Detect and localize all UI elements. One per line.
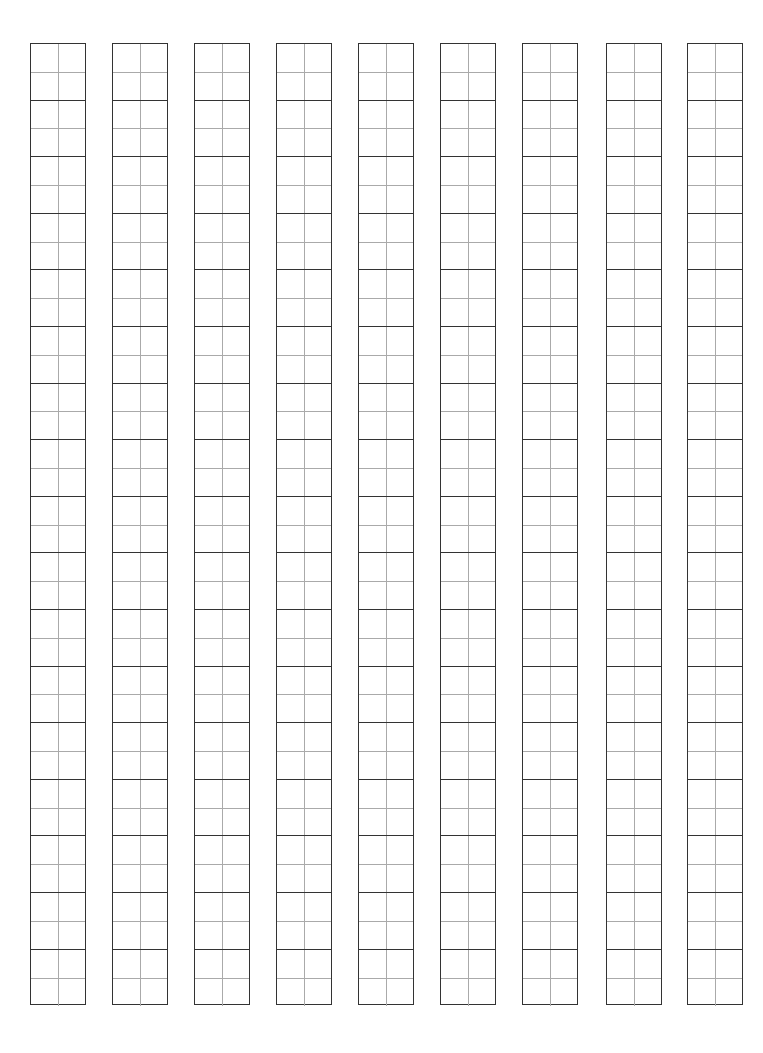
- grid-cell: [31, 667, 85, 724]
- grid-cell: [688, 950, 742, 1007]
- grid-cell: [441, 214, 495, 271]
- grid-cell: [31, 836, 85, 893]
- grid-cell: [607, 553, 661, 610]
- grid-cell: [688, 101, 742, 158]
- grid-cell: [31, 44, 85, 101]
- grid-cell: [195, 327, 249, 384]
- grid-cell: [195, 667, 249, 724]
- grid-cell: [31, 384, 85, 441]
- grid-cell: [195, 101, 249, 158]
- grid-cell: [359, 667, 413, 724]
- grid-cell: [359, 214, 413, 271]
- grid-cell: [688, 440, 742, 497]
- grid-cell: [31, 327, 85, 384]
- grid-cell: [441, 384, 495, 441]
- grid-cell: [441, 553, 495, 610]
- grid-cell: [277, 270, 331, 327]
- grid-cell: [523, 270, 577, 327]
- grid-cell: [441, 44, 495, 101]
- grid-column-5: [358, 43, 414, 1005]
- grid-cell: [607, 893, 661, 950]
- grid-cell: [688, 214, 742, 271]
- grid-cell: [195, 836, 249, 893]
- grid-cell: [523, 893, 577, 950]
- grid-cell: [113, 384, 167, 441]
- grid-cell: [441, 327, 495, 384]
- grid-cell: [607, 440, 661, 497]
- grid-cell: [441, 723, 495, 780]
- grid-cell: [195, 780, 249, 837]
- grid-cell: [441, 950, 495, 1007]
- grid-cell: [523, 723, 577, 780]
- grid-cell: [607, 667, 661, 724]
- grid-cell: [277, 44, 331, 101]
- grid-cell: [607, 497, 661, 554]
- grid-cell: [113, 836, 167, 893]
- grid-cell: [359, 384, 413, 441]
- grid-cell: [195, 497, 249, 554]
- grid-cell: [113, 553, 167, 610]
- grid-cell: [113, 327, 167, 384]
- grid-cell: [195, 440, 249, 497]
- grid-cell: [523, 44, 577, 101]
- grid-cell: [113, 950, 167, 1007]
- grid-cell: [195, 610, 249, 667]
- grid-cell: [113, 157, 167, 214]
- grid-cell: [31, 497, 85, 554]
- grid-cell: [607, 270, 661, 327]
- grid-cell: [523, 667, 577, 724]
- grid-cell: [31, 950, 85, 1007]
- grid-cell: [359, 157, 413, 214]
- grid-cell: [277, 610, 331, 667]
- grid-cell: [441, 836, 495, 893]
- grid-cell: [359, 440, 413, 497]
- grid-cell: [195, 553, 249, 610]
- grid-cell: [277, 440, 331, 497]
- grid-cell: [607, 384, 661, 441]
- grid-cell: [31, 610, 85, 667]
- grid-cell: [113, 44, 167, 101]
- grid-cell: [607, 780, 661, 837]
- grid-cell: [359, 101, 413, 158]
- grid-cell: [277, 157, 331, 214]
- grid-cell: [688, 610, 742, 667]
- grid-cell: [359, 723, 413, 780]
- grid-cell: [113, 101, 167, 158]
- grid-cell: [688, 270, 742, 327]
- grid-cell: [523, 214, 577, 271]
- grid-cell: [523, 327, 577, 384]
- grid-cell: [523, 780, 577, 837]
- grid-column-6: [440, 43, 496, 1005]
- grid-cell: [607, 836, 661, 893]
- grid-cell: [523, 836, 577, 893]
- grid-cell: [441, 440, 495, 497]
- grid-cell: [607, 101, 661, 158]
- grid-cell: [607, 950, 661, 1007]
- grid-cell: [195, 270, 249, 327]
- grid-cell: [441, 497, 495, 554]
- grid-cell: [441, 893, 495, 950]
- grid-cell: [277, 327, 331, 384]
- grid-cell: [359, 950, 413, 1007]
- grid-cell: [277, 214, 331, 271]
- grid-cell: [277, 836, 331, 893]
- grid-cell: [277, 101, 331, 158]
- grid-cell: [523, 384, 577, 441]
- grid-cell: [31, 270, 85, 327]
- grid-cell: [607, 214, 661, 271]
- grid-cell: [113, 270, 167, 327]
- grid-cell: [523, 950, 577, 1007]
- grid-cell: [688, 44, 742, 101]
- grid-cell: [31, 553, 85, 610]
- grid-cell: [195, 384, 249, 441]
- grid-cell: [31, 214, 85, 271]
- grid-cell: [359, 610, 413, 667]
- grid-column-8: [606, 43, 662, 1005]
- grid-cell: [441, 157, 495, 214]
- grid-cell: [359, 497, 413, 554]
- grid-cell: [688, 384, 742, 441]
- grid-cell: [113, 610, 167, 667]
- grid-cell: [607, 327, 661, 384]
- grid-cell: [195, 723, 249, 780]
- grid-cell: [441, 270, 495, 327]
